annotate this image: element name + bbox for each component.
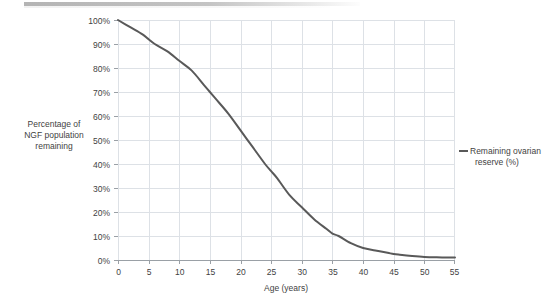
x-tick-label: 0 <box>116 267 121 277</box>
x-tick-label: 10 <box>175 267 185 277</box>
y-axis-tickmarks <box>114 21 118 261</box>
legend-item: Remaining ovarian reserve (%) <box>459 146 547 168</box>
chart-legend: Remaining ovarian reserve (%) <box>459 146 547 168</box>
y-tick-label: 30% <box>93 184 110 194</box>
y-tick-label: 10% <box>93 232 110 242</box>
legend-item-label: Remaining ovarian reserve (%) <box>470 146 541 168</box>
x-tick-label: 35 <box>328 267 338 277</box>
x-tick-label: 30 <box>298 267 308 277</box>
x-tick-label: 55 <box>450 267 460 277</box>
y-axis-title: Percentage of NGF population remaining <box>12 119 96 152</box>
x-axis-tick-labels: 0 5 10 15 20 25 30 35 40 45 50 55 <box>116 267 459 277</box>
y-tick-label: 20% <box>93 208 110 218</box>
x-tick-label: 25 <box>267 267 277 277</box>
x-tick-label: 45 <box>389 267 399 277</box>
y-tick-label: 70% <box>93 88 110 98</box>
ovarian-reserve-chart: 100% 90% 80% 70% 60% 50% 40% 30% 20% 10%… <box>0 0 551 304</box>
x-tick-label: 15 <box>206 267 216 277</box>
y-tick-label: 0% <box>98 256 111 266</box>
y-axis-title-line-2: NGF population <box>24 130 84 140</box>
y-tick-label: 100% <box>88 16 110 26</box>
line-swatch-icon <box>459 150 468 152</box>
x-tick-label: 20 <box>236 267 246 277</box>
y-tick-label: 40% <box>93 160 110 170</box>
legend-label-line-2: reserve (%) <box>470 157 541 168</box>
x-tick-label: 5 <box>147 267 152 277</box>
legend-label-line-1: Remaining ovarian <box>470 146 541 156</box>
y-tick-label: 80% <box>93 64 110 74</box>
y-axis-title-line-3: remaining <box>35 141 72 151</box>
x-tick-label: 40 <box>359 267 369 277</box>
y-tick-label: 90% <box>93 40 110 50</box>
x-axis-title: Age (years) <box>264 283 308 293</box>
x-tick-label: 50 <box>420 267 430 277</box>
y-axis-title-line-1: Percentage of <box>28 119 81 129</box>
